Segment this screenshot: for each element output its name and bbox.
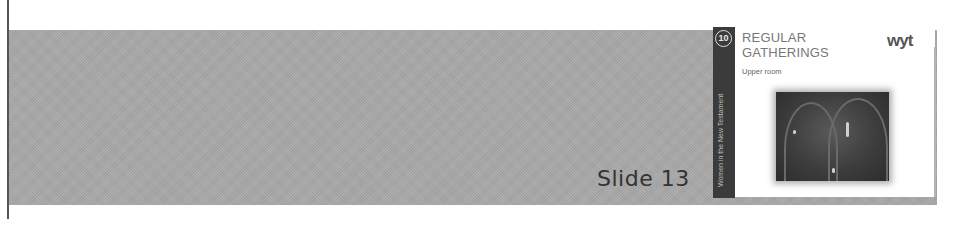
window-light (832, 168, 835, 173)
slide-title: REGULAR GATHERINGS (742, 30, 829, 60)
slide-label: Slide 13 (597, 166, 690, 191)
window-light (793, 130, 796, 134)
window-light (846, 122, 849, 137)
chapter-badge: 10 (715, 30, 732, 47)
slide-thumbnail[interactable]: 10 Women in the New Testament REGULAR GA… (713, 27, 936, 198)
arch-shape (828, 98, 888, 181)
thumbnail-content: REGULAR GATHERINGS wyt Upper room (735, 27, 935, 197)
wyt-logo-icon: wyt (887, 31, 912, 51)
thumbnail-sidebar-strip: 10 Women in the New Testament (713, 27, 735, 198)
slide-title-line2: GATHERINGS (742, 45, 829, 60)
church-interior-photo (776, 92, 889, 181)
slide-title-line1: REGULAR (742, 30, 829, 45)
slide-subtitle: Upper room (742, 67, 782, 76)
thumbnail-right-border (934, 47, 936, 197)
sidebar-vertical-text: Women in the New Testament (717, 57, 729, 187)
